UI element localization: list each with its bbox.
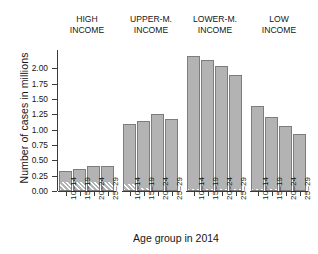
panel-title-line1: HIGH	[58, 14, 116, 25]
x-axis-tick	[236, 192, 237, 196]
x-axis-tick-label: 25–29	[175, 177, 184, 200]
x-axis-tick-label: 20–24	[97, 177, 106, 200]
y-axis-tick-label: 0.75	[2, 140, 48, 150]
x-axis-tick-label: 15–19	[147, 177, 156, 200]
y-axis-tick-label: 0.00	[2, 186, 48, 196]
y-axis-tick-label: 0.25	[2, 171, 48, 181]
x-axis-tick	[172, 192, 173, 196]
panel-title-lower-middle-income: LOWER-M.INCOME	[186, 14, 244, 35]
x-axis-tick	[272, 192, 273, 196]
panel-title-line2: INCOME	[122, 25, 180, 36]
bar	[215, 66, 228, 191]
x-axis-tick	[158, 192, 159, 196]
bar	[229, 75, 242, 191]
x-axis-tick-label: 20–24	[161, 177, 170, 200]
x-axis-tick	[258, 192, 259, 196]
panel-high-income: HIGHINCOME10–1415–1920–2425–29	[58, 14, 116, 230]
y-axis-tick-label: 1.75	[2, 79, 48, 89]
y-axis-tick-label: 1.50	[2, 94, 48, 104]
y-axis-tick	[52, 99, 57, 100]
x-axis-tick-label: 25–29	[111, 177, 120, 200]
x-axis-tick	[66, 192, 67, 196]
panel-title-line1: LOW	[250, 14, 308, 25]
bar-chart: Number of cases in millions 0.000.250.50…	[0, 0, 318, 254]
y-axis-tick	[52, 176, 57, 177]
panel-title-line2: INCOME	[250, 25, 308, 36]
bar	[187, 56, 200, 191]
x-axis-tick	[300, 192, 301, 196]
y-axis-tick-label: 0.50	[2, 155, 48, 165]
x-axis-tick	[108, 192, 109, 196]
x-axis-tick	[208, 192, 209, 196]
x-axis-tick	[80, 192, 81, 196]
x-axis-tick-label: 25–29	[239, 177, 248, 200]
panel-title-line2: INCOME	[58, 25, 116, 36]
plot-area-upper-middle-income	[122, 50, 180, 191]
x-axis-tick-label: 10–14	[69, 177, 78, 200]
panel-low-income: LOWINCOME10–1415–1920–2425–29	[250, 14, 308, 230]
plot-area-low-income	[250, 50, 308, 191]
panel-upper-middle-income: UPPER-M.INCOME10–1415–1920–2425–29	[122, 14, 180, 230]
y-axis-tick	[52, 160, 57, 161]
x-axis-tick-label: 25–29	[303, 177, 312, 200]
panel-title-low-income: LOWINCOME	[250, 14, 308, 35]
x-axis-tick-label: 10–14	[197, 177, 206, 200]
x-axis-tick-label: 15–19	[211, 177, 220, 200]
bar	[201, 60, 214, 191]
panel-title-line1: UPPER-M.	[122, 14, 180, 25]
panel-title-line1: LOWER-M.	[186, 14, 244, 25]
x-axis-tick-label: 15–19	[275, 177, 284, 200]
x-axis-tick	[94, 192, 95, 196]
y-axis-tick	[52, 145, 57, 146]
x-axis-tick	[222, 192, 223, 196]
y-axis-tick	[52, 68, 57, 69]
plot-area-lower-middle-income	[186, 50, 244, 191]
x-axis-tick	[130, 192, 131, 196]
panel-title-high-income: HIGHINCOME	[58, 14, 116, 35]
panel-title-upper-middle-income: UPPER-M.INCOME	[122, 14, 180, 35]
x-axis-tick	[194, 192, 195, 196]
panel-title-line2: INCOME	[186, 25, 244, 36]
x-axis-tick-label: 20–24	[225, 177, 234, 200]
y-axis-tick	[52, 191, 57, 192]
plot-area-high-income	[58, 50, 116, 191]
x-axis-title: Age group in 2014	[40, 232, 312, 244]
x-axis-tick-label: 15–19	[83, 177, 92, 200]
x-axis-tick-label: 10–14	[133, 177, 142, 200]
y-axis-tick-label: 2.00	[2, 63, 48, 73]
x-axis-tick-label: 20–24	[289, 177, 298, 200]
x-axis-tick	[286, 192, 287, 196]
y-axis-tick-label: 1.25	[2, 109, 48, 119]
y-axis-tick	[52, 114, 57, 115]
y-axis-tick-label: 1.00	[2, 125, 48, 135]
x-axis-tick	[144, 192, 145, 196]
panel-lower-middle-income: LOWER-M.INCOME10–1415–1920–2425–29	[186, 14, 244, 230]
y-axis-tick	[52, 84, 57, 85]
y-axis-tick	[52, 130, 57, 131]
x-axis-tick-label: 10–14	[261, 177, 270, 200]
